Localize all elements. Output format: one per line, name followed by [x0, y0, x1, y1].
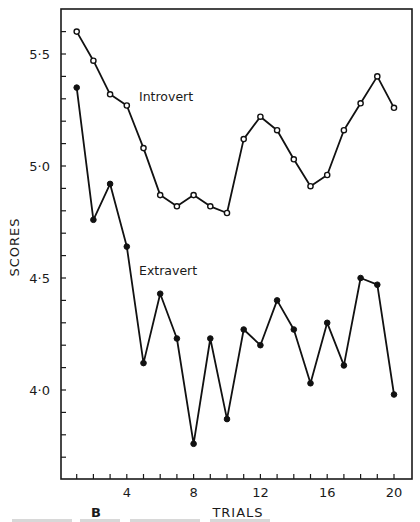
panel-label: B: [91, 505, 101, 520]
open-circle-marker: [241, 137, 246, 142]
filled-circle-marker: [208, 336, 214, 342]
open-circle-marker: [258, 114, 263, 119]
series-introvert: [74, 29, 397, 216]
filled-circle-marker: [91, 217, 97, 223]
open-circle-marker: [375, 74, 380, 79]
open-circle-marker: [191, 193, 196, 198]
x-tick-label: 4: [123, 485, 131, 500]
filled-circle-marker: [291, 327, 297, 333]
series-extravert: [74, 85, 397, 447]
x-axis-tick-labels: 48121620: [123, 485, 403, 500]
x-axis-title: TRIALS: [211, 505, 263, 520]
filled-circle-marker: [191, 441, 197, 447]
y-axis-tick-labels: 4·04·55·05·5: [29, 47, 50, 398]
filled-circle-marker: [375, 282, 381, 288]
filled-circle-marker: [74, 85, 80, 91]
y-axis-title: SCORES: [7, 217, 22, 276]
filled-circle-marker: [308, 381, 314, 387]
open-circle-marker: [308, 184, 313, 189]
open-circle-marker: [275, 128, 280, 133]
series-line: [77, 88, 394, 444]
open-circle-marker: [358, 101, 363, 106]
open-circle-marker: [108, 92, 113, 97]
x-tick-label: 12: [252, 485, 269, 500]
filled-circle-marker: [391, 392, 397, 398]
open-circle-marker: [74, 29, 79, 34]
x-tick-label: 16: [319, 485, 336, 500]
filled-circle-marker: [107, 181, 113, 187]
filled-circle-marker: [241, 327, 247, 333]
open-circle-marker: [341, 128, 346, 133]
filled-circle-marker: [258, 342, 264, 348]
y-tick-label: 5·5: [29, 47, 50, 62]
y-tick-label: 4·5: [29, 271, 50, 286]
series-line: [77, 32, 394, 213]
filled-circle-marker: [358, 275, 364, 281]
open-circle-marker: [391, 105, 396, 110]
filled-circle-marker: [157, 291, 163, 297]
open-circle-marker: [325, 172, 330, 177]
filled-circle-marker: [274, 298, 280, 304]
open-circle-marker: [208, 204, 213, 209]
open-circle-marker: [291, 157, 296, 162]
x-tick-label: 8: [189, 485, 197, 500]
introvert-label: Introvert: [139, 89, 193, 104]
filled-circle-marker: [324, 320, 330, 326]
open-circle-marker: [91, 58, 96, 63]
filled-circle-marker: [224, 416, 230, 422]
filled-circle-marker: [341, 363, 347, 369]
line-chart: 4·04·55·05·5 48121620 SCORES TRIALS B In…: [0, 0, 420, 522]
filled-circle-marker: [124, 244, 130, 250]
open-circle-marker: [124, 103, 129, 108]
x-tick-label: 20: [386, 485, 403, 500]
open-circle-marker: [174, 204, 179, 209]
open-circle-marker: [158, 193, 163, 198]
filled-circle-marker: [174, 336, 180, 342]
plot-frame: [61, 9, 412, 479]
open-circle-marker: [224, 210, 229, 215]
filled-circle-marker: [141, 360, 147, 366]
y-tick-label: 5·0: [29, 159, 50, 174]
extravert-label: Extravert: [139, 263, 197, 278]
y-tick-label: 4·0: [29, 383, 50, 398]
open-circle-marker: [141, 146, 146, 151]
